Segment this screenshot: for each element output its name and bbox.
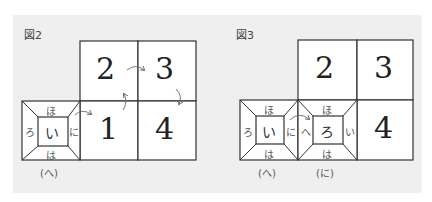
face-label-top: ほ <box>322 102 332 117</box>
box-caption: (へ) <box>40 165 58 180</box>
face-label-right: に <box>286 124 296 139</box>
cell-number: 3 <box>374 50 393 85</box>
box-caption: (へ) <box>258 165 276 180</box>
face-label-right: い <box>345 124 355 139</box>
face-label-bottom: は <box>322 146 332 161</box>
cell-number: 4 <box>374 110 393 145</box>
face-label-top: ほ <box>264 102 274 117</box>
face-label-left: ろ <box>25 124 35 139</box>
cell-number: 2 <box>315 50 334 85</box>
face-label-bottom: は <box>46 147 56 162</box>
face-label-center: ろ <box>320 121 334 141</box>
face-label-left: ろ <box>243 124 253 139</box>
cell-number: 4 <box>155 111 174 146</box>
cube-net-diagram <box>0 0 432 202</box>
face-label-right: に <box>69 124 79 139</box>
cell-number: 2 <box>96 51 115 86</box>
cell-number: 1 <box>99 111 118 146</box>
face-label-bottom: は <box>264 146 274 161</box>
face-label-center: い <box>262 121 276 141</box>
cell-number: 3 <box>155 51 174 86</box>
box-caption: (に) <box>316 165 334 180</box>
face-label-center: い <box>45 122 59 142</box>
face-label-left: へ <box>301 124 311 139</box>
face-label-top: ほ <box>46 103 56 118</box>
